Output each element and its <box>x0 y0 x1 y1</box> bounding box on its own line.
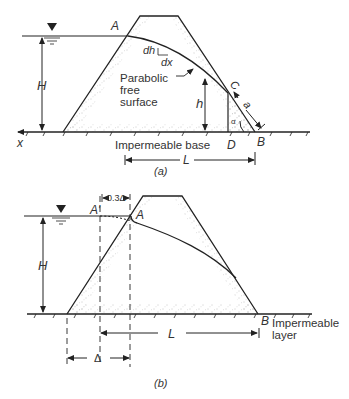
label-A-b: A <box>135 208 144 222</box>
label-surface: surface <box>120 96 158 108</box>
label-impermeable-base: Impermeable base <box>115 139 210 151</box>
leader-arrow <box>176 69 193 76</box>
label-free: free <box>120 84 140 96</box>
label-L-b: L <box>168 326 175 341</box>
label-H: H <box>37 78 47 93</box>
water-level-icon <box>44 23 60 44</box>
label-impermeable: Impermeable <box>272 317 339 329</box>
seepage-diagram: A H h dh dx Parabolic free surface C a α… <box>0 0 349 399</box>
figure-b: A′ A H 0.3Δ B Impermeable layer L Δ (b) <box>24 193 339 389</box>
label-C: C <box>228 78 242 92</box>
label-h: h <box>196 96 203 111</box>
slope-triangle <box>158 48 168 55</box>
downstream-stipple-b <box>173 196 258 314</box>
label-alpha: α <box>231 117 236 126</box>
label-D: D <box>227 138 236 152</box>
label-x: x <box>16 136 24 150</box>
label-layer: layer <box>272 329 297 341</box>
dimension-a-top <box>234 92 238 98</box>
label-dx: dx <box>161 56 173 68</box>
label-B: B <box>257 135 265 149</box>
label-L-a: L <box>183 153 190 167</box>
label-A: A <box>110 19 119 33</box>
base-stipple-b <box>67 304 258 314</box>
label-dh: dh <box>143 44 155 56</box>
caption-b: (b) <box>154 377 168 389</box>
label-A-prime: A′ <box>89 203 101 217</box>
label-B-b: B <box>261 314 269 328</box>
label-H-b: H <box>38 258 48 273</box>
label-0.3-delta: 0.3Δ <box>107 193 126 203</box>
label-parabolic: Parabolic <box>120 72 168 84</box>
water-level-icon-b <box>52 205 70 224</box>
basic-parabola-dotted <box>100 216 131 221</box>
caption-a: (a) <box>154 165 168 177</box>
label-a: a <box>241 98 254 110</box>
label-delta: Δ <box>94 352 102 364</box>
figure-a: A H h dh dx Parabolic free surface C a α… <box>16 16 310 177</box>
base-stipple <box>63 124 255 132</box>
